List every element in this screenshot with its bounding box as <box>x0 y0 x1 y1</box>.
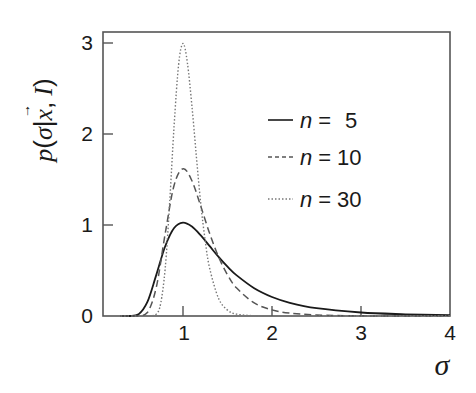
svg-text:1: 1 <box>178 321 190 344</box>
y-tick-labels: 3 2 1 0 <box>81 31 93 327</box>
chart: p(σ|x,I) → 3 2 1 0 1 2 3 4 σ n= <box>0 0 476 393</box>
legend-item-n5: n=5 <box>268 108 357 133</box>
curve-n5 <box>121 223 450 316</box>
svg-text:3: 3 <box>81 31 93 54</box>
svg-text:n=5: n=5 <box>300 108 357 133</box>
svg-text:2: 2 <box>266 321 278 344</box>
svg-text:n=10: n=10 <box>300 145 362 170</box>
x-axis-title: σ <box>435 348 451 381</box>
svg-text:n=30: n=30 <box>300 187 362 212</box>
svg-text:2: 2 <box>81 122 93 145</box>
curve-n30 <box>121 43 450 316</box>
legend-item-n10: n=10 <box>268 145 362 170</box>
svg-text:1: 1 <box>81 213 93 236</box>
curves <box>121 43 450 316</box>
legend: n=5 n=10 n=30 <box>268 108 362 212</box>
y-axis-title: p(σ|x,I) → <box>18 78 58 163</box>
plot-frame <box>103 32 450 316</box>
y-axis <box>103 43 113 225</box>
svg-text:p(σ|x,I): p(σ|x,I) <box>28 78 58 163</box>
svg-text:3: 3 <box>355 321 367 344</box>
vector-arrow-icon: → <box>18 104 33 118</box>
svg-text:0: 0 <box>81 304 93 327</box>
x-tick-labels: 1 2 3 4 <box>178 321 456 344</box>
svg-text:4: 4 <box>444 321 456 344</box>
legend-item-n30: n=30 <box>268 187 362 212</box>
